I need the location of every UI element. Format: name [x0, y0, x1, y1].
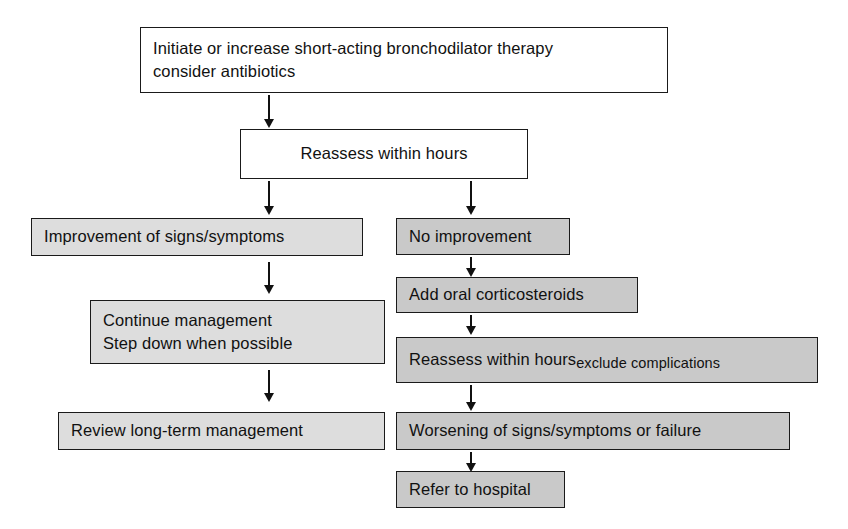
node-start: Initiate or increase short-acting bronch…: [140, 27, 668, 93]
node-reassess-exclude-sub: exclude complications: [576, 355, 720, 371]
node-start-line2: consider antibiotics: [141, 60, 667, 83]
node-start-line1: Initiate or increase short-acting bronch…: [141, 37, 667, 60]
node-worsening-label: Worsening of signs/symptoms or failure: [397, 419, 789, 442]
node-no-improvement-label: No improvement: [397, 225, 569, 248]
node-continue-management-line2: Step down when possible: [91, 332, 384, 355]
node-review-long-term: Review long-term management: [58, 412, 385, 450]
node-refer: Refer to hospital: [396, 471, 565, 508]
node-improvement: Improvement of signs/symptoms: [31, 218, 363, 256]
node-reassess-top: Reassess within hours: [240, 129, 528, 179]
arrow-reassess-to-worsening: [460, 385, 482, 411]
arrow-corticosteroids-to-reassess: [460, 315, 482, 335]
arrow-reassess-to-no-improvement: [460, 181, 482, 215]
node-continue-management: Continue management Step down when possi…: [90, 300, 385, 364]
node-review-long-term-label: Review long-term management: [59, 419, 384, 442]
node-reassess-top-label: Reassess within hours: [290, 142, 477, 165]
node-reassess-exclude-main: Reassess within hours: [409, 350, 576, 368]
node-reassess-exclude: Reassess within hoursexclude complicatio…: [396, 337, 818, 383]
arrow-start-to-reassess: [258, 95, 280, 128]
node-refer-label: Refer to hospital: [397, 478, 564, 501]
node-continue-management-line1: Continue management: [91, 309, 384, 332]
arrow-no-improvement-to-corticosteroids: [460, 257, 482, 277]
arrow-worsening-to-refer: [460, 452, 482, 472]
arrow-reassess-to-improvement: [258, 181, 280, 215]
node-add-corticosteroids-label: Add oral corticosteroids: [397, 283, 637, 306]
arrow-improvement-to-continue: [258, 262, 280, 294]
node-add-corticosteroids: Add oral corticosteroids: [396, 277, 638, 313]
flowchart-canvas: Initiate or increase short-acting bronch…: [0, 0, 848, 529]
node-reassess-exclude-text: Reassess within hoursexclude complicatio…: [397, 348, 817, 371]
node-no-improvement: No improvement: [396, 218, 570, 255]
node-improvement-label: Improvement of signs/symptoms: [32, 225, 362, 248]
node-worsening: Worsening of signs/symptoms or failure: [396, 412, 790, 450]
arrow-continue-to-review: [258, 370, 280, 402]
